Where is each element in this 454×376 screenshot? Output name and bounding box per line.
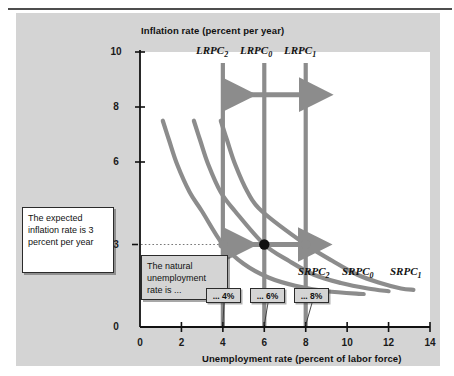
x-tick-label-2: 2 — [169, 337, 193, 348]
point-equilibrium-4 — [218, 240, 227, 249]
srpc-label-2-subscript: 2 — [326, 271, 330, 280]
x-tick-label-12: 12 — [377, 337, 401, 348]
lrpc-label-2: LRPC2 — [196, 44, 228, 59]
x-tick-label-0: 0 — [128, 337, 152, 348]
lrpc-label-0-base: LRPC — [240, 44, 268, 56]
lrpc-label-2-base: LRPC — [196, 44, 224, 56]
lrpc-label-1-base: LRPC — [284, 44, 312, 56]
expected-inflation-callout: The expected inflation rate is 3 percent… — [22, 207, 114, 273]
point-equilibrium-8 — [301, 240, 310, 249]
y-tick-label-0: 0 — [104, 321, 128, 332]
x-tick-label-4: 4 — [211, 337, 235, 348]
phillips-curve-figure: Inflation rate (percent per year) Unempl… — [0, 0, 454, 376]
x-tick-label-6: 6 — [252, 337, 276, 348]
srpc-label-0-subscript: 0 — [370, 271, 374, 280]
lrpc-label-1: LRPC1 — [284, 44, 316, 59]
srpc-label-0: SRPC0 — [342, 265, 374, 280]
y-tick-label-6: 6 — [104, 156, 128, 167]
natural-rate-4-percent-callout: ... 4% — [206, 288, 241, 303]
lrpc-label-2-subscript: 2 — [224, 50, 228, 59]
srpc-label-1-base: SRPC — [390, 265, 418, 277]
x-tick-label-10: 10 — [335, 337, 359, 348]
callout-leader-group — [223, 303, 312, 325]
x-tick-label-14: 14 — [418, 337, 442, 348]
srpc-label-2-base: SRPC — [298, 265, 326, 277]
x-tick-label-8: 8 — [294, 337, 318, 348]
natural-rate-6-percent-callout: ... 6% — [250, 288, 285, 303]
srpc-label-1-subscript: 1 — [418, 271, 422, 280]
srpc-label-0-base: SRPC — [342, 265, 370, 277]
lrpc-label-0: LRPC0 — [240, 44, 272, 59]
x-axis-title: Unemployment rate (percent of labor forc… — [202, 353, 402, 364]
point-equilibrium-6 — [259, 239, 269, 249]
srpc-label-2: SRPC2 — [298, 265, 330, 280]
lrpc-label-0-subscript: 0 — [268, 50, 272, 59]
y-axis-title: Inflation rate (percent per year) — [141, 25, 284, 36]
y-tick-label-8: 8 — [104, 101, 128, 112]
lrpc-label-1-subscript: 1 — [312, 50, 316, 59]
y-tick-label-10: 10 — [104, 46, 128, 57]
natural-rate-8-percent-callout: ... 8% — [294, 288, 329, 303]
srpc-label-1: SRPC1 — [390, 265, 422, 280]
